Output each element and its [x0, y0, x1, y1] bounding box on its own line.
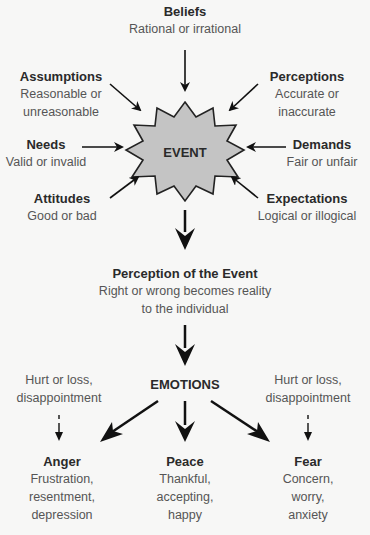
perception-of-event-title: Perception of the Event: [99, 266, 271, 282]
left-side-note-1: Hurt or loss,: [17, 371, 102, 389]
emotions-label: EMOTIONS: [150, 377, 219, 393]
right-disappointment-arrow: [304, 415, 312, 441]
expectations-title: Expectations: [258, 191, 357, 207]
event-emotions-diagram: EVENT Beliefs Rational or irrational Ass…: [0, 0, 370, 535]
beliefs-sub: Rational or irrational: [129, 20, 241, 38]
perception-of-event-sub-2: to the individual: [99, 300, 271, 318]
anger-sub-1: Frustration,: [29, 470, 95, 488]
anger-label: Anger Frustration, resentment, depressio…: [29, 454, 95, 524]
perceptions-sub-2: inaccurate: [270, 103, 344, 121]
left-side-note: Hurt or loss, disappointment: [17, 371, 102, 407]
right-side-note-2: disappointment: [266, 389, 351, 407]
perception-of-event-sub-1: Right or wrong becomes reality: [99, 282, 271, 300]
assumptions-title: Assumptions: [20, 69, 102, 85]
expectations-sub: Logical or illogical: [258, 207, 357, 225]
perceptions-label: Perceptions Accurate or inaccurate: [270, 69, 344, 121]
attitudes-arrow: [110, 177, 138, 198]
fear-sub-3: anxiety: [283, 506, 334, 524]
fear-sub-2: worry,: [283, 488, 334, 506]
assumptions-arrow: [110, 84, 140, 110]
expectations-label: Expectations Logical or illogical: [258, 191, 357, 225]
demands-title: Demands: [287, 137, 358, 153]
assumptions-sub-1: Reasonable or: [20, 85, 102, 103]
emotions-to-peace-arrow: [175, 401, 195, 442]
event-to-perception-arrow: [175, 210, 195, 250]
attitudes-sub: Good or bad: [27, 207, 97, 225]
needs-title: Needs: [6, 137, 86, 153]
emotions-to-anger-arrow: [100, 401, 158, 442]
perceptions-arrow: [230, 84, 258, 110]
fear-title: Fear: [283, 454, 334, 470]
event-label: EVENT: [163, 145, 206, 160]
assumptions-sub-2: unreasonable: [20, 103, 102, 121]
anger-sub-2: resentment,: [29, 488, 95, 506]
anger-title: Anger: [29, 454, 95, 470]
beliefs-title: Beliefs: [129, 4, 241, 20]
needs-label: Needs Valid or invalid: [6, 137, 86, 171]
peace-label: Peace Thankful, accepting, happy: [157, 454, 214, 524]
perceptions-sub-1: Accurate or: [270, 85, 344, 103]
anger-sub-3: depression: [29, 506, 95, 524]
perception-to-emotions-arrow: [175, 325, 195, 366]
peace-title: Peace: [157, 454, 214, 470]
assumptions-label: Assumptions Reasonable or unreasonable: [20, 69, 102, 121]
left-disappointment-arrow: [55, 415, 63, 441]
peace-sub-1: Thankful,: [157, 470, 214, 488]
demands-sub: Fair or unfair: [287, 153, 358, 171]
right-side-note: Hurt or loss, disappointment: [266, 371, 351, 407]
expectations-arrow: [232, 177, 258, 198]
emotions-title: EMOTIONS: [150, 377, 219, 393]
peace-sub-2: accepting,: [157, 488, 214, 506]
attitudes-title: Attitudes: [27, 191, 97, 207]
right-side-note-1: Hurt or loss,: [266, 371, 351, 389]
peace-sub-3: happy: [157, 506, 214, 524]
attitudes-label: Attitudes Good or bad: [27, 191, 97, 225]
left-side-note-2: disappointment: [17, 389, 102, 407]
demands-label: Demands Fair or unfair: [287, 137, 358, 171]
fear-sub-1: Concern,: [283, 470, 334, 488]
emotions-to-fear-arrow: [211, 401, 270, 442]
beliefs-label: Beliefs Rational or irrational: [129, 4, 241, 38]
perception-of-event-label: Perception of the Event Right or wrong b…: [99, 266, 271, 318]
needs-sub: Valid or invalid: [6, 153, 86, 171]
perceptions-title: Perceptions: [270, 69, 344, 85]
fear-label: Fear Concern, worry, anxiety: [283, 454, 334, 524]
